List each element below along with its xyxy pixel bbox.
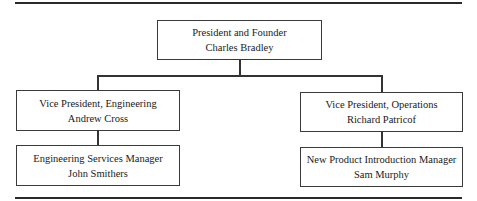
vp-operations-name: Richard Patricof	[347, 112, 416, 127]
new-product-introduction-manager-title: New Product Introduction Manager	[307, 152, 457, 167]
president-box: President and Founder Charles Bradley	[157, 20, 322, 60]
top-rule	[15, 2, 462, 4]
right-branch-drop	[381, 75, 383, 93]
vp-engineering-title: Vice President, Engineering	[39, 96, 156, 111]
engineering-services-manager-box: Engineering Services Manager John Smithe…	[16, 145, 180, 186]
left-branch-drop	[97, 75, 99, 91]
root-connector-vertical	[239, 59, 241, 76]
left-report-connector	[97, 130, 99, 146]
vp-operations-box: Vice President, Operations Richard Patri…	[300, 92, 463, 132]
engineering-services-manager-title: Engineering Services Manager	[33, 151, 162, 166]
new-product-introduction-manager-box: New Product Introduction Manager Sam Mur…	[300, 147, 463, 187]
president-name: Charles Bradley	[206, 40, 274, 55]
vp-engineering-name: Andrew Cross	[68, 111, 128, 126]
president-title: President and Founder	[192, 25, 287, 40]
engineering-services-manager-name: John Smithers	[68, 166, 128, 181]
bottom-rule	[15, 197, 462, 199]
vp-engineering-box: Vice President, Engineering Andrew Cross	[16, 90, 180, 131]
right-report-connector	[381, 131, 383, 148]
vp-operations-title: Vice President, Operations	[325, 97, 437, 112]
branch-connector-horizontal	[97, 75, 383, 77]
new-product-introduction-manager-name: Sam Murphy	[354, 167, 409, 182]
